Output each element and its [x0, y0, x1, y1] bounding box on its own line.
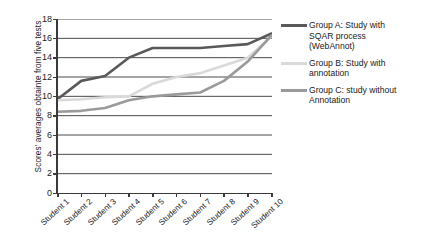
- legend-entry: Group A: Study with SQAR process (WebAnn…: [281, 20, 428, 52]
- legend-swatch: [281, 62, 307, 65]
- legend-swatch: [281, 24, 307, 27]
- legend-entry: Group B: Study with annotation: [281, 58, 428, 79]
- x-tick-mark: [247, 193, 249, 197]
- legend-label: Group B: Study with annotation: [309, 58, 385, 79]
- legend-label: Group A: Study with SQAR process (WebAnn…: [309, 20, 385, 52]
- x-tick-mark: [271, 193, 273, 197]
- x-tick-mark: [105, 193, 107, 197]
- x-tick-mark: [176, 193, 178, 197]
- x-tick-mark: [57, 193, 59, 197]
- x-tick-mark: [128, 193, 130, 197]
- legend-label: Group C: study without Annotation: [309, 85, 396, 106]
- x-tick-mark: [81, 193, 83, 197]
- chart-legend: Group A: Study with SQAR process (WebAnn…: [281, 20, 428, 112]
- legend-entry: Group C: study without Annotation: [281, 85, 428, 106]
- x-tick-mark: [223, 193, 225, 197]
- legend-swatch: [281, 89, 307, 92]
- x-tick-mark: [152, 193, 154, 197]
- x-tick-mark: [200, 193, 202, 197]
- line-chart-figure: Scores' averages obtainte from five test…: [0, 0, 428, 249]
